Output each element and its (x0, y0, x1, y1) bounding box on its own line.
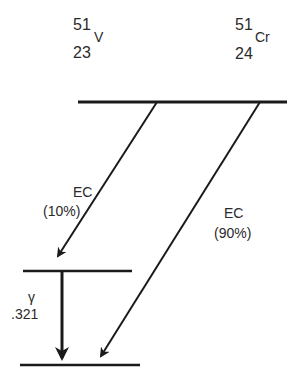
ec-10-branch: (10%) (43, 204, 80, 218)
ec-90-label: EC (224, 206, 243, 220)
ec-90-branch: (90%) (214, 226, 251, 240)
cr51-mass-number: 51 (235, 17, 253, 33)
cr51-symbol: Cr (255, 30, 270, 44)
decay-scheme-diagram (0, 0, 304, 383)
ec-10-arrow (58, 102, 157, 256)
ec-10-label: EC (73, 185, 92, 199)
v51-atomic-number: 23 (73, 45, 91, 61)
gamma-energy: .321 (11, 307, 38, 321)
cr51-atomic-number: 24 (235, 46, 253, 62)
v51-symbol: V (94, 30, 103, 44)
v51-mass-number: 51 (73, 17, 91, 33)
gamma-symbol: γ (28, 290, 35, 304)
